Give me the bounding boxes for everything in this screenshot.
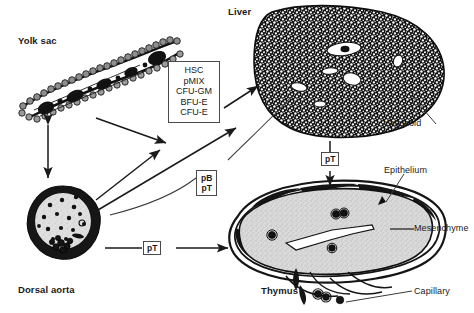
mesenchyme-label: Mesenchyme — [414, 224, 469, 233]
progenitor-item-pmix: pMIX — [176, 76, 212, 87]
progenitor-item-hsc: HSC — [176, 65, 212, 76]
tag-pt-aorta-thymus: pT — [143, 241, 161, 255]
curve-pb-pt-right — [228, 96, 292, 160]
progenitor-box: HSC pMIX CFU-GM BFU-E CFU-E — [168, 61, 220, 123]
liver-label: Liver — [228, 7, 251, 17]
tag-pb-label: pB — [201, 173, 212, 183]
sinusoid-label: Sinusoid — [386, 119, 421, 128]
tag-pb-pt: pB pT — [196, 170, 217, 196]
arrow-progenitors-to-liver — [224, 86, 258, 108]
progenitor-item-cfue: CFU-E — [176, 107, 212, 118]
arrow-aorta-to-liver — [98, 128, 236, 210]
thymus-label: Thymus — [261, 286, 298, 296]
yolk-sac-structure — [19, 37, 183, 123]
tag-pt-label: pT — [325, 154, 335, 164]
progenitor-item-bfue: BFU-E — [176, 97, 212, 108]
arrow-yolksac-to-progenitors — [96, 118, 166, 143]
diagram-graphics — [0, 0, 474, 313]
dorsal-aorta-label: Dorsal aorta — [18, 285, 75, 295]
tag-pt-label-2: pT — [147, 243, 157, 253]
tag-pt-liver-thymus: pT — [321, 152, 339, 166]
yolk-sac-label: Yolk sac — [18, 36, 57, 46]
figure-canvas: Yolk sac Liver Dorsal aorta Thymus Sinus… — [0, 0, 474, 313]
tag-pt-label-3: pT — [201, 183, 212, 193]
dorsal-aorta-structure — [27, 186, 100, 259]
curve-pb-pt-left — [110, 178, 196, 215]
progenitor-item-cfugm: CFU-GM — [176, 86, 212, 97]
figure-caption — [0, 304, 474, 313]
capillary-label: Capillary — [414, 287, 450, 296]
epithelium-label: Epithelium — [384, 166, 427, 175]
